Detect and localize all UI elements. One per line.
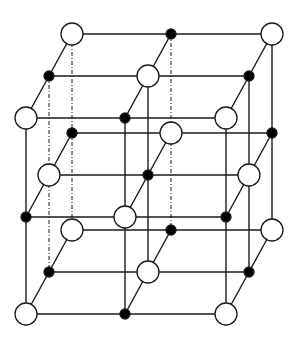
filled-ion-node — [244, 71, 254, 81]
filled-ion-node — [267, 128, 277, 138]
open-ion-node — [61, 219, 83, 241]
open-ion-node — [215, 303, 237, 325]
filled-ion-node — [166, 29, 176, 39]
open-ion-node — [137, 65, 159, 87]
filled-ion-node — [143, 170, 153, 180]
filled-ion-node — [21, 212, 31, 222]
open-ion-node — [15, 107, 37, 129]
filled-ion-node — [244, 267, 254, 277]
filled-ion-node — [221, 212, 231, 222]
lattice-nodes — [15, 23, 283, 325]
filled-ion-node — [44, 267, 54, 277]
open-ion-node — [15, 303, 37, 325]
open-ion-node — [261, 219, 283, 241]
open-ion-node — [114, 206, 136, 228]
open-ion-node — [261, 23, 283, 45]
open-ion-node — [137, 261, 159, 283]
open-ion-node — [38, 164, 60, 186]
open-ion-node — [238, 164, 260, 186]
filled-ion-node — [44, 71, 54, 81]
open-ion-node — [160, 122, 182, 144]
filled-ion-node — [67, 128, 77, 138]
filled-ion-node — [120, 309, 130, 319]
filled-ion-node — [166, 225, 176, 235]
crystal-lattice-diagram — [0, 0, 298, 343]
open-ion-node — [61, 23, 83, 45]
filled-ion-node — [120, 113, 130, 123]
open-ion-node — [215, 107, 237, 129]
